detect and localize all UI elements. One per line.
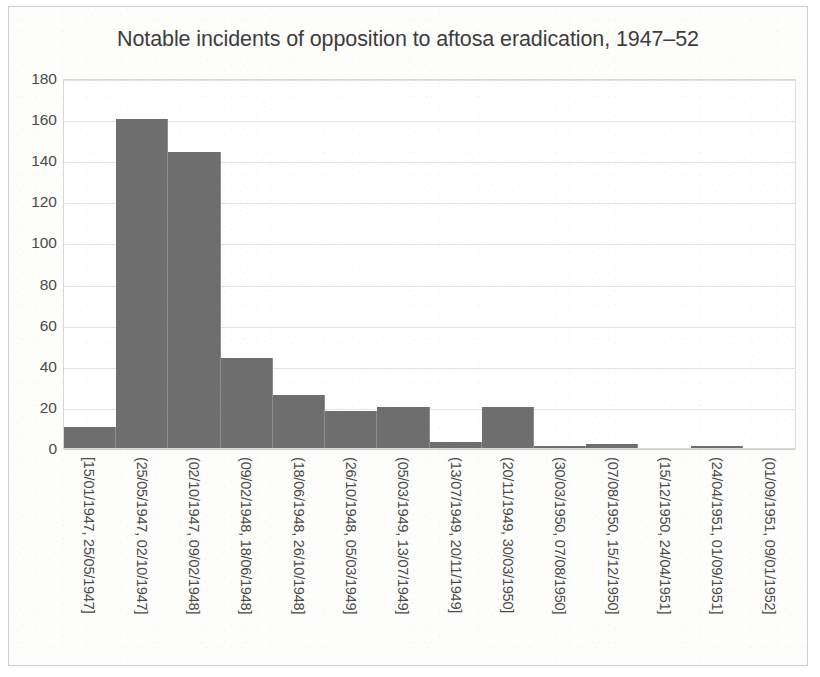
- x-axis-tick-label: (15/12/1950, 24/04/1951]: [657, 457, 673, 614]
- bar[interactable]: [325, 411, 377, 448]
- bar-cell: [221, 80, 273, 448]
- bar-cell: [430, 80, 482, 448]
- bar-series: [64, 80, 795, 448]
- x-axis-tick: (24/04/1951, 01/09/1951]: [691, 451, 743, 659]
- x-axis-tick: [15/01/1947, 25/05/1947]: [63, 451, 115, 659]
- bar[interactable]: [691, 446, 743, 448]
- x-axis-tick: (15/12/1950, 24/04/1951]: [639, 451, 691, 659]
- x-axis-tick: (07/08/1950, 15/12/1950]: [587, 451, 639, 659]
- y-axis-tick-label: 0: [48, 440, 57, 458]
- x-axis-tick: (09/02/1948, 18/06/1948]: [220, 451, 272, 659]
- bar-cell: [482, 80, 534, 448]
- x-axis-tick-label: (09/02/1948, 18/06/1948]: [238, 457, 254, 614]
- x-axis: [15/01/1947, 25/05/1947](25/05/1947, 02/…: [63, 451, 796, 659]
- bar-cell: [168, 80, 220, 448]
- bar-cell: [64, 80, 116, 448]
- x-axis-tick-label: (13/07/1949, 20/11/1949]: [448, 457, 464, 613]
- plot-area: [63, 79, 796, 449]
- y-axis-tick-label: 180: [31, 70, 57, 88]
- bar[interactable]: [377, 407, 429, 448]
- x-axis-tick: (02/10/1947, 09/02/1948]: [168, 451, 220, 659]
- x-axis-tick-label: (01/09/1951, 09/01/1952]: [762, 457, 778, 614]
- x-axis-tick: (13/07/1949, 20/11/1949]: [430, 451, 482, 659]
- bar[interactable]: [430, 442, 482, 448]
- x-axis-tick: (05/03/1949, 13/07/1949]: [377, 451, 429, 659]
- x-axis-tick-label: (24/04/1951, 01/09/1951]: [709, 457, 725, 614]
- bar-cell: [638, 80, 690, 448]
- x-axis-tick: (30/03/1950, 07/08/1950]: [534, 451, 586, 659]
- y-axis-tick-label: 120: [31, 193, 57, 211]
- chart-frame: Notable incidents of opposition to aftos…: [8, 6, 808, 666]
- chart-title: Notable incidents of opposition to aftos…: [9, 27, 807, 52]
- x-axis-tick-label: (25/05/1947, 02/10/1947]: [134, 457, 150, 614]
- x-axis-tick-label: (18/06/1948, 26/10/1948]: [291, 457, 307, 614]
- bar[interactable]: [586, 444, 638, 448]
- x-axis-tick-label: (20/11/1949, 30/03/1950]: [500, 457, 516, 613]
- bar-cell: [116, 80, 168, 448]
- x-axis-tick-label: [15/01/1947, 25/05/1947]: [81, 457, 97, 613]
- x-axis-tick-label: (30/03/1950, 07/08/1950]: [552, 457, 568, 614]
- x-axis-tick: (01/09/1951, 09/01/1952]: [744, 451, 796, 659]
- bar[interactable]: [534, 446, 586, 448]
- y-axis-tick-label: 140: [31, 152, 57, 170]
- y-axis-tick-label: 160: [31, 111, 57, 129]
- y-axis-tick-label: 40: [40, 358, 57, 376]
- y-axis-tick-label: 20: [40, 399, 57, 417]
- x-axis-tick-label: (05/03/1949, 13/07/1949]: [395, 457, 411, 614]
- x-axis-tick: (18/06/1948, 26/10/1948]: [272, 451, 324, 659]
- y-axis: 020406080100120140160180: [9, 79, 57, 449]
- bar-cell: [586, 80, 638, 448]
- y-axis-tick-label: 100: [31, 234, 57, 252]
- bar-cell: [691, 80, 743, 448]
- x-axis-tick: (25/05/1947, 02/10/1947]: [115, 451, 167, 659]
- bar-cell: [325, 80, 377, 448]
- gridline: [64, 449, 795, 450]
- bar-cell: [377, 80, 429, 448]
- x-axis-tick: (26/10/1948, 05/03/1949]: [325, 451, 377, 659]
- y-axis-tick-label: 80: [40, 276, 57, 294]
- y-axis-tick-label: 60: [40, 317, 57, 335]
- bar[interactable]: [168, 152, 220, 448]
- bar-cell: [534, 80, 586, 448]
- bar[interactable]: [482, 407, 534, 448]
- bar[interactable]: [273, 395, 325, 448]
- x-axis-tick-label: (26/10/1948, 05/03/1949]: [343, 457, 359, 614]
- bar[interactable]: [221, 358, 273, 448]
- bar[interactable]: [64, 427, 116, 448]
- bar-cell: [273, 80, 325, 448]
- bar-cell: [743, 80, 795, 448]
- x-axis-tick: (20/11/1949, 30/03/1950]: [482, 451, 534, 659]
- bar[interactable]: [116, 119, 168, 448]
- x-axis-tick-label: (02/10/1947, 09/02/1948]: [186, 457, 202, 614]
- x-axis-tick-label: (07/08/1950, 15/12/1950]: [605, 457, 621, 614]
